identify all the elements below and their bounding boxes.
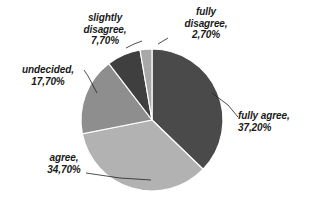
- pie-label-fully-agree-line1: fully agree,: [238, 110, 315, 122]
- pie-label-slightly-disagree: slightly disagree, 7,70%: [62, 12, 148, 47]
- pie-label-slightly-disagree-line2: disagree,: [62, 24, 148, 36]
- pie-label-fully-disagree: fully disagree, 2,70%: [170, 6, 242, 41]
- pie-chart-canvas: [0, 0, 315, 206]
- leader-line-fully-disagree: [158, 38, 168, 44]
- pie-label-slightly-disagree-value: 7,70%: [62, 35, 148, 47]
- pie-label-fully-agree: fully agree, 37,20%: [238, 110, 315, 133]
- pie-label-fully-disagree-line1: fully: [170, 6, 242, 18]
- pie-label-undecided-value: 17,70%: [2, 76, 94, 88]
- pie-label-fully-disagree-value: 2,70%: [170, 29, 242, 41]
- pie-label-fully-disagree-line2: disagree,: [170, 18, 242, 30]
- pie-label-slightly-disagree-line1: slightly: [62, 12, 148, 24]
- pie-label-agree: agree, 34,70%: [24, 152, 104, 175]
- pie-label-undecided-line1: undecided,: [2, 64, 94, 76]
- pie-label-agree-line1: agree,: [24, 152, 104, 164]
- pie-label-undecided: undecided, 17,70%: [2, 64, 94, 87]
- pie-label-agree-value: 34,70%: [24, 164, 104, 176]
- pie-chart: slightly disagree, 7,70% fully disagree,…: [0, 0, 315, 206]
- pie-label-fully-agree-value: 37,20%: [238, 122, 315, 134]
